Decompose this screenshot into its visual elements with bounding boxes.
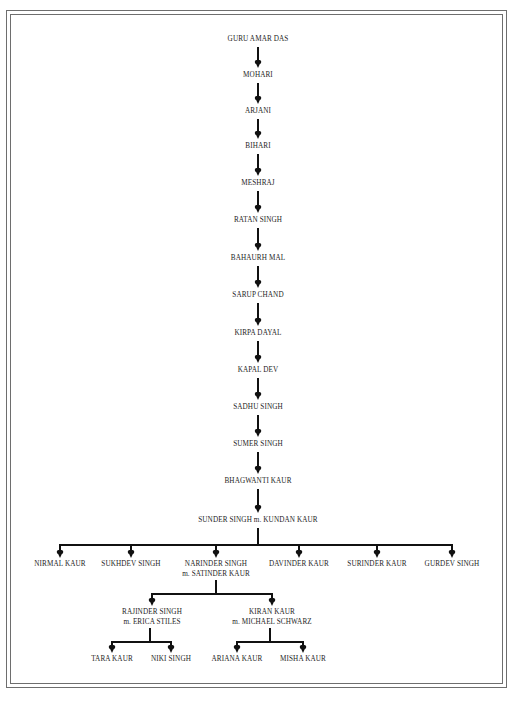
descent-arrow-head-round: [255, 60, 261, 64]
child-name: SURINDER KAUR: [347, 560, 407, 568]
great-grandchild-name: TARA KAUR: [91, 655, 133, 663]
great-grandchild-arrow-head-round: [234, 645, 240, 649]
grandchild-name: RAJINDER SINGH: [122, 608, 182, 616]
descent-arrow-head-round: [255, 243, 261, 247]
lineage-person: KAPAL DEV: [238, 366, 279, 374]
lineage-person: SUMER SINGH: [233, 440, 283, 448]
great-grandchild-name: ARIANA KAUR: [212, 655, 263, 663]
great-grandchild-arrow-head-round: [168, 645, 174, 649]
descent-arrow-head-round: [255, 355, 261, 359]
descent-arrow-head-round: [255, 131, 261, 135]
great-grandchild-name: MISHA KAUR: [280, 655, 326, 663]
child-name: DAVINDER KAUR: [269, 560, 329, 568]
descent-arrow-head-round: [255, 318, 261, 322]
descent-arrow-head-round: [255, 96, 261, 100]
grandchild-spouse: m. ERICA STILES: [123, 618, 180, 626]
lineage-person: RATAN SINGH: [234, 216, 282, 224]
grandchild-arrow-head-round: [149, 598, 155, 602]
lineage-person: SADHU SINGH: [233, 403, 283, 411]
descent-arrow-head-round: [255, 505, 261, 509]
descent-arrow-head-round: [255, 205, 261, 209]
lineage-person: BAHAURH MAL: [231, 254, 285, 262]
child-arrow-head-round: [374, 550, 380, 554]
family-tree: GURU AMAR DASMOHARIARJANIBIHARIMESHRAJRA…: [0, 0, 517, 702]
lineage-person: KIRPA DAYAL: [234, 329, 281, 337]
lineage-person: ARJANI: [245, 107, 272, 115]
child-arrow-head-round: [213, 550, 219, 554]
child-name: SUKHDEV SINGH: [101, 560, 160, 568]
grandchild-name: KIRAN KAUR: [249, 608, 295, 616]
child-name: GURDEV SINGH: [425, 560, 480, 568]
great-grandchild-arrow-head-round: [109, 645, 115, 649]
child-arrow-head-round: [449, 550, 455, 554]
child-arrow-head-round: [296, 550, 302, 554]
grandchild-spouse: m. MICHAEL SCHWARZ: [232, 618, 312, 626]
lineage-person: GURU AMAR DAS: [228, 35, 289, 43]
lineage-person: MOHARI: [243, 71, 273, 79]
child-arrow-head-round: [57, 550, 63, 554]
great-grandchild-name: NIKI SINGH: [151, 655, 191, 663]
lineage-person: SUNDER SINGH m. KUNDAN KAUR: [198, 516, 318, 524]
lineage-person: SARUP CHAND: [232, 291, 283, 299]
lineage-person: BIHARI: [245, 142, 271, 150]
descent-arrow-head-round: [255, 392, 261, 396]
descent-arrow-head-round: [255, 280, 261, 284]
grandchild-arrow-head-round: [269, 598, 275, 602]
lineage-person: MESHRAJ: [241, 179, 275, 187]
descent-arrow-head-round: [255, 466, 261, 470]
child-arrow-head-round: [128, 550, 134, 554]
child-name: NIRMAL KAUR: [34, 560, 85, 568]
child-spouse: m. SATINDER KAUR: [182, 570, 250, 578]
great-grandchild-arrow-head-round: [300, 645, 306, 649]
descent-arrow-head-round: [255, 429, 261, 433]
lineage-person: BHAGWANTI KAUR: [224, 477, 291, 485]
child-name: NARINDER SINGH: [185, 560, 247, 568]
descent-arrow-head-round: [255, 168, 261, 172]
